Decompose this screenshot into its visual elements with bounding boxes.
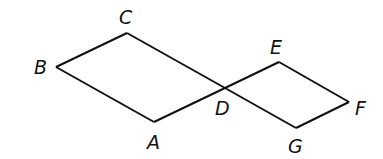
parallelogram-defg: [225, 62, 349, 128]
label-e: E: [270, 36, 282, 58]
segment-cd: [127, 33, 225, 88]
label-a: A: [145, 131, 160, 153]
segment-ef: [279, 62, 349, 102]
label-d: D: [215, 97, 230, 119]
segment-ab: [56, 67, 154, 122]
label-b: B: [34, 56, 47, 78]
label-c: C: [119, 6, 133, 28]
segment-fg: [296, 102, 349, 128]
label-f: F: [355, 97, 367, 119]
geometry-diagram: C B A D E F G: [0, 0, 383, 159]
segment-bc: [56, 33, 127, 67]
vertex-labels: C B A D E F G: [34, 6, 367, 157]
segment-de: [225, 62, 279, 88]
label-g: G: [288, 135, 303, 157]
segment-gd: [225, 88, 296, 128]
parallelogram-abcd: [56, 33, 225, 122]
